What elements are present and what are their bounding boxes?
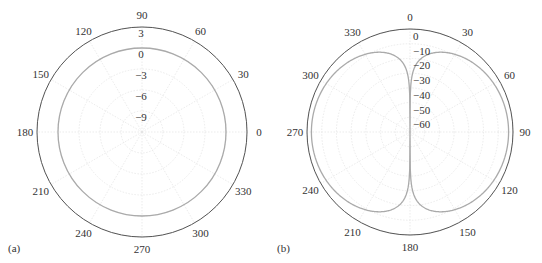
panel-label: (a) (8, 242, 21, 255)
angle-tick-label: 90 (137, 9, 149, 21)
angle-tick-label: 330 (344, 26, 361, 38)
angle-tick-label: 270 (287, 126, 304, 138)
radial-tick-label: −6 (135, 90, 147, 102)
radial-tick-label: 0 (413, 30, 419, 42)
angle-tick-label: 240 (302, 184, 319, 196)
radial-tick-label: −40 (413, 89, 431, 101)
grid-spoke (142, 132, 195, 223)
grid-spoke (90, 41, 143, 132)
angle-tick-label: 240 (75, 227, 92, 239)
radial-tick-label: −20 (413, 59, 431, 71)
angle-tick-label: 150 (32, 68, 49, 80)
radial-tick-label: −3 (135, 69, 147, 81)
grid-spoke (90, 132, 143, 223)
grid-spoke (142, 80, 233, 133)
polar-chart-a: 30−3−6−90306090120150180210240270300330(… (8, 9, 262, 255)
angle-tick-label: 180 (17, 126, 34, 138)
angle-tick-label: 120 (501, 184, 518, 196)
grid-spoke (142, 132, 233, 185)
angle-tick-label: 60 (195, 25, 207, 37)
angle-tick-label: 60 (504, 69, 516, 81)
radial-tick-label: −60 (413, 118, 431, 130)
grid-spoke (410, 132, 499, 184)
grid-spoke (359, 132, 411, 221)
angle-tick-label: 210 (344, 226, 361, 238)
radial-tick-label: 3 (138, 27, 144, 39)
polar-charts: 30−3−6−90306090120150180210240270300330(… (0, 0, 542, 263)
angle-tick-label: 0 (256, 126, 262, 138)
panel-label: (b) (277, 242, 290, 255)
angle-tick-label: 300 (192, 227, 209, 239)
angle-tick-label: 120 (75, 25, 92, 37)
radial-tick-label: −30 (413, 74, 431, 86)
angle-tick-label: 90 (520, 126, 532, 138)
angle-tick-label: 210 (32, 185, 49, 197)
angle-tick-label: 0 (407, 11, 413, 23)
angle-tick-label: 270 (134, 243, 151, 255)
grid-spoke (51, 80, 142, 133)
grid-spoke (321, 132, 410, 184)
angle-tick-label: 300 (302, 69, 319, 81)
angle-tick-label: 150 (459, 226, 476, 238)
radial-tick-label: 0 (138, 48, 144, 60)
grid-spoke (410, 132, 462, 221)
angle-tick-label: 330 (235, 185, 252, 197)
grid-spoke (142, 41, 195, 132)
polar-chart-b: 0−10−20−30−40−50−60030609012015018021024… (277, 11, 531, 255)
angle-tick-label: 180 (402, 241, 419, 253)
grid-spoke (321, 81, 410, 133)
grid-spoke (359, 43, 411, 132)
angle-tick-label: 30 (462, 26, 474, 38)
grid-spoke (51, 132, 142, 185)
radial-tick-label: −10 (413, 45, 431, 57)
radial-tick-label: −9 (135, 111, 147, 123)
radial-tick-label: −50 (413, 104, 431, 116)
angle-tick-label: 30 (238, 68, 250, 80)
